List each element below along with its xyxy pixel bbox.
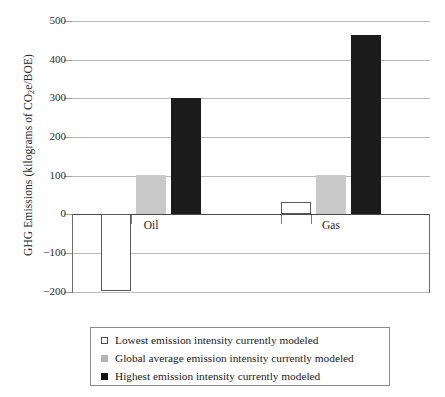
legend-item-highest: Highest emission intensity currently mod… bbox=[101, 370, 320, 382]
bar-gas-lowest bbox=[281, 202, 311, 214]
y-tick-label-minus200: −200 bbox=[18, 285, 66, 297]
legend-swatch-lowest-icon bbox=[101, 337, 108, 344]
legend-swatch-highest-icon bbox=[101, 373, 108, 380]
x-tick-3 bbox=[281, 215, 282, 224]
legend-item-average: Global average emission intensity curren… bbox=[101, 352, 354, 364]
plot-area: GHG Emissions (kilograms of CO2e/BOE) 50… bbox=[0, 0, 445, 320]
y-tick-label-300: 300 bbox=[18, 91, 66, 103]
bar-gas-highest bbox=[351, 35, 381, 214]
y-tick-label-minus100: −100 bbox=[18, 246, 66, 258]
y-tick-label-0: 0 bbox=[18, 207, 66, 219]
x-tick-2 bbox=[131, 215, 132, 224]
bar-gas-average bbox=[316, 175, 346, 214]
legend-swatch-average-icon bbox=[101, 355, 108, 362]
chart-legend: Lowest emission intensity currently mode… bbox=[90, 327, 390, 386]
gridline-minus200 bbox=[72, 292, 430, 293]
y-tick-label-400: 400 bbox=[18, 53, 66, 65]
y-axis-title: GHG Emissions (kilograms of CO2e/BOE) bbox=[22, 30, 36, 280]
y-tick-label-200: 200 bbox=[18, 130, 66, 142]
x-category-label-gas: Gas bbox=[322, 219, 340, 231]
bar-oil-average bbox=[136, 175, 166, 214]
bar-oil-highest bbox=[171, 98, 201, 214]
y-tick-label-100: 100 bbox=[18, 169, 66, 181]
chart-figure: GHG Emissions (kilograms of CO2e/BOE) 50… bbox=[0, 0, 445, 397]
axis-spine-left bbox=[72, 214, 73, 293]
x-tick-4 bbox=[311, 215, 312, 224]
legend-label-average: Global average emission intensity curren… bbox=[115, 352, 354, 364]
gridline-500 bbox=[72, 21, 430, 22]
legend-item-lowest: Lowest emission intensity currently mode… bbox=[101, 334, 318, 346]
x-category-label-oil: Oil bbox=[144, 219, 159, 231]
legend-label-lowest: Lowest emission intensity currently mode… bbox=[115, 334, 318, 346]
bar-oil-lowest bbox=[101, 214, 131, 291]
axis-spine-right bbox=[429, 214, 430, 293]
legend-label-highest: Highest emission intensity currently mod… bbox=[115, 370, 320, 382]
y-tick-label-500: 500 bbox=[18, 14, 66, 26]
